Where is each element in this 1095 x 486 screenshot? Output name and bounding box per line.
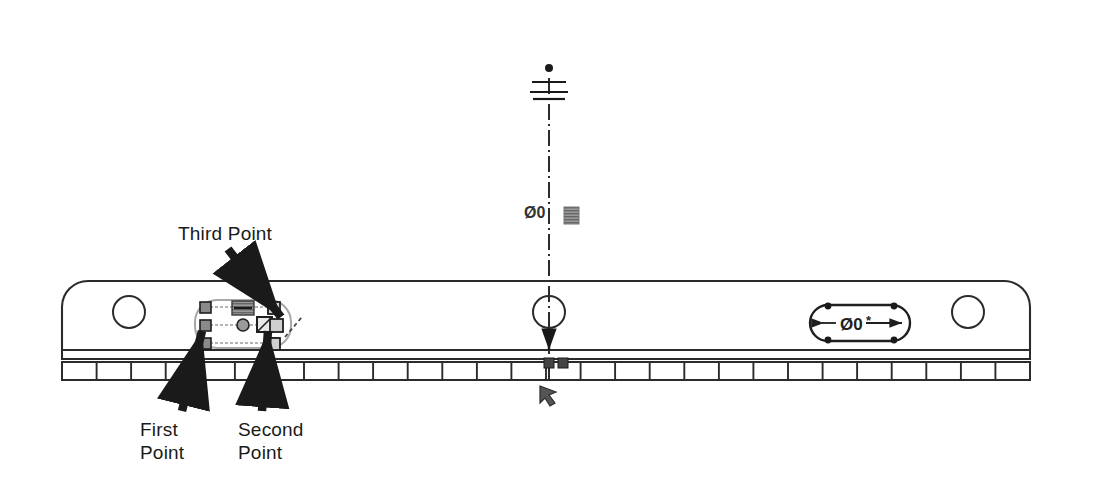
- slot-dimension-suffix-mark: *: [866, 313, 872, 328]
- drag-handle-icon[interactable]: [270, 319, 283, 332]
- center-dimension-swatch[interactable]: [564, 207, 579, 224]
- selected-slot-entity[interactable]: [195, 300, 302, 350]
- center-dimension-text: Ø0: [524, 204, 545, 221]
- callout-third-point: Third Point: [178, 222, 272, 245]
- grip-mid-left: [200, 320, 211, 331]
- first-point-arrow: [182, 331, 202, 411]
- slot-dimension-text: Ø0: [840, 315, 863, 334]
- screenshot-canvas: Ø0 Ø0 *: [0, 0, 1095, 486]
- callout-first-point: First Point: [140, 418, 184, 464]
- callout-second-point: Second Point: [238, 418, 304, 464]
- grip-top-left: [200, 302, 211, 313]
- grip-center-circle[interactable]: [237, 319, 249, 331]
- second-point-arrow: [262, 331, 268, 411]
- cad-drawing-viewport[interactable]: Ø0 Ø0 *: [0, 0, 1095, 486]
- vertical-centerline-group[interactable]: [530, 64, 568, 380]
- arrow-cursor-icon[interactable]: [540, 386, 556, 406]
- slot-dimension-group[interactable]: Ø0 *: [810, 303, 910, 344]
- center-diameter-dimension[interactable]: Ø0: [524, 204, 579, 224]
- left-hole-circle[interactable]: [113, 296, 145, 328]
- right-hole-circle[interactable]: [952, 296, 984, 328]
- rubber-band-line: [285, 317, 302, 337]
